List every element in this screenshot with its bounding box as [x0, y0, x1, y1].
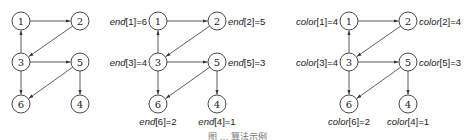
color-label-2: color[2]=4 [419, 16, 461, 27]
color-label-3: color[3]=4 [296, 57, 338, 68]
color-label-4: color[4]=1 [387, 116, 429, 127]
node-label: 2 [405, 16, 411, 27]
node-6: 6 [340, 95, 358, 113]
end-label-3: end[3]=4 [110, 57, 147, 68]
node-1: 1 [340, 12, 358, 30]
node-label: 3 [346, 57, 352, 68]
node-1: 1 [12, 12, 30, 30]
end-label-6: end[6]=2 [139, 116, 176, 127]
node-2: 2 [208, 12, 226, 30]
node-label: 4 [405, 99, 411, 110]
node-label: 1 [18, 16, 24, 27]
edge-5-to-6 [357, 67, 401, 98]
node-5: 5 [208, 53, 226, 71]
panel-end-values: 123564end[1]=6end[2]=5end[3]=4end[5]=3en… [110, 12, 266, 127]
node-6: 6 [149, 95, 167, 113]
node-label: 6 [346, 99, 352, 110]
node-label: 2 [214, 16, 220, 27]
end-label-5: end[5]=3 [228, 57, 265, 68]
edge-5-to-6 [166, 67, 210, 98]
panel-graph: 123564 [12, 12, 89, 113]
node-label: 1 [155, 16, 161, 27]
node-3: 3 [149, 53, 167, 71]
node-label: 3 [18, 57, 24, 68]
node-5: 5 [399, 53, 417, 71]
node-6: 6 [12, 95, 30, 113]
end-label-1: end[1]=6 [110, 16, 147, 27]
node-label: 1 [346, 16, 352, 27]
node-label: 6 [155, 99, 161, 110]
node-label: 5 [77, 57, 83, 68]
node-4: 4 [399, 95, 417, 113]
edge-2-to-3 [166, 26, 210, 56]
node-3: 3 [12, 53, 30, 71]
figure-caption: 图 … 算法示例 [0, 130, 475, 140]
node-label: 5 [405, 57, 411, 68]
node-label: 2 [77, 16, 83, 27]
end-label-2: end[2]=5 [228, 16, 265, 27]
node-2: 2 [399, 12, 417, 30]
node-4: 4 [208, 95, 226, 113]
node-label: 5 [214, 57, 220, 68]
node-5: 5 [71, 53, 89, 71]
diagram-canvas: 123564123564end[1]=6end[2]=5end[3]=4end[… [0, 0, 475, 140]
panel-color-values: 123564color[1]=4color[2]=4color[3]=4colo… [296, 12, 461, 127]
edge-5-to-6 [29, 67, 73, 98]
node-3: 3 [340, 53, 358, 71]
color-label-5: color[5]=3 [419, 57, 461, 68]
color-label-1: color[1]=4 [296, 16, 338, 27]
node-label: 4 [214, 99, 220, 110]
color-label-6: color[6]=2 [328, 116, 370, 127]
node-label: 3 [155, 57, 161, 68]
end-label-4: end[4]=1 [198, 116, 235, 127]
node-label: 4 [77, 99, 83, 110]
node-label: 6 [18, 99, 24, 110]
node-1: 1 [149, 12, 167, 30]
edge-2-to-3 [29, 26, 73, 56]
node-2: 2 [71, 12, 89, 30]
node-4: 4 [71, 95, 89, 113]
edge-2-to-3 [357, 26, 401, 56]
